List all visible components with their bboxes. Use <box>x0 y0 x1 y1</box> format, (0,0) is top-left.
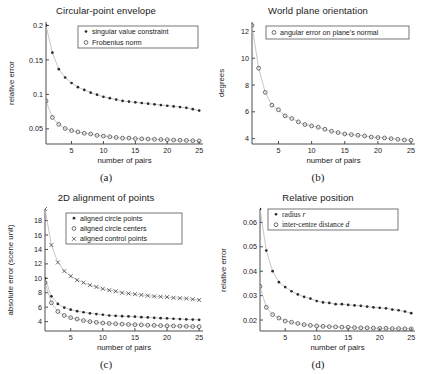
x-tick-label: 10 <box>308 146 316 155</box>
y-tick-label: 14 <box>34 245 42 254</box>
x-tick-label: 10 <box>99 146 107 155</box>
data-point <box>153 317 156 320</box>
x-tick-label: 25 <box>407 146 415 155</box>
y-tick-label: 0.1 <box>33 90 43 99</box>
data-point <box>160 104 163 107</box>
legend-label: aligned control points <box>80 235 147 243</box>
panel-d-caption: (d) <box>212 358 424 370</box>
panel-b: World plane orientation 5101520254681012… <box>212 0 424 187</box>
data-point <box>309 297 312 300</box>
x-tick-label: 10 <box>99 333 107 342</box>
data-point <box>44 277 47 280</box>
x-tick-label: 10 <box>313 333 321 342</box>
y-axis-label: degrees <box>217 69 226 97</box>
data-point <box>191 318 194 321</box>
plot-area-a: 5101520250.050.10.150.2number of pairsre… <box>0 0 212 187</box>
legend-label: inter-centre distance d <box>282 220 350 229</box>
legend-marker <box>73 217 76 220</box>
x-tick-label: 5 <box>70 146 74 155</box>
panel-c-caption: (c) <box>0 358 212 370</box>
data-point <box>185 318 188 321</box>
data-point <box>127 315 130 318</box>
data-point <box>378 306 381 309</box>
y-tick-label: 6 <box>38 303 42 312</box>
data-point <box>166 317 169 320</box>
data-point <box>56 260 60 264</box>
x-tick-label: 5 <box>69 333 73 342</box>
legend-label: radius r <box>282 210 305 219</box>
panel-a-caption: (a) <box>0 171 212 183</box>
x-tick-label: 5 <box>277 146 281 155</box>
x-tick-label: 15 <box>131 333 139 342</box>
trend-line <box>45 278 199 320</box>
y-axis-label: relative error <box>7 61 16 105</box>
data-point <box>271 270 274 273</box>
data-point <box>284 286 287 289</box>
data-point <box>341 303 344 306</box>
data-point <box>134 315 137 318</box>
data-point <box>69 274 73 278</box>
x-tick-label: 5 <box>283 333 287 342</box>
y-tick-label: 0.02 <box>243 316 257 325</box>
data-point <box>353 304 356 307</box>
x-tick-label: 15 <box>344 333 352 342</box>
data-point <box>259 208 262 211</box>
data-point <box>159 317 162 320</box>
data-point <box>153 103 156 106</box>
y-tick-label: 0.06 <box>243 218 257 227</box>
data-point <box>172 317 175 320</box>
legend-label: Frobenius norm <box>92 39 142 47</box>
y-tick-label: 0.04 <box>243 267 257 276</box>
x-tick-label: 25 <box>195 146 203 155</box>
figure-container: Circular-point envelope 5101520250.050.1… <box>0 0 425 374</box>
plot-area-d: 5101520250.020.030.040.050.06number of p… <box>212 187 424 374</box>
data-point <box>62 269 66 273</box>
panel-c: 2D alignment of points 51015202546810121… <box>0 187 212 374</box>
x-tick-label: 20 <box>376 333 384 342</box>
data-point <box>146 316 149 319</box>
panel-d: Relative position 5101520250.020.030.040… <box>212 187 424 374</box>
data-point <box>83 89 86 92</box>
x-tick-label: 20 <box>163 146 171 155</box>
data-point <box>108 314 111 317</box>
data-point <box>410 312 413 315</box>
data-point <box>278 281 281 284</box>
data-point <box>198 109 201 112</box>
data-point <box>185 106 188 109</box>
trend-line <box>45 283 199 327</box>
data-point <box>51 51 54 54</box>
data-point <box>45 24 48 27</box>
data-point <box>95 313 98 316</box>
x-tick-label: 15 <box>131 146 139 155</box>
trend-line <box>260 286 411 328</box>
panel-a: Circular-point envelope 5101520250.050.1… <box>0 0 212 187</box>
y-tick-label: 0.2 <box>33 21 43 30</box>
legend-label: aligned circle centers <box>80 225 147 233</box>
y-tick-label: 12 <box>34 259 42 268</box>
data-point <box>191 108 194 111</box>
panel-b-caption: (b) <box>212 171 424 183</box>
data-point <box>315 300 318 303</box>
legend-marker <box>85 30 88 33</box>
data-point <box>102 95 105 98</box>
x-tick-label: 20 <box>374 146 382 155</box>
legend-marker <box>275 213 278 216</box>
y-tick-label: 10 <box>241 54 249 63</box>
x-axis-label: number of pairs <box>97 343 151 352</box>
data-point <box>70 82 73 85</box>
y-tick-label: 12 <box>241 27 249 36</box>
data-point <box>115 98 118 101</box>
data-point <box>69 308 72 311</box>
data-point <box>179 106 182 109</box>
plot-area-c: 5101520254681012141618number of pairsabs… <box>0 187 212 374</box>
legend-label: angular error on plane's normal <box>280 29 379 37</box>
data-point <box>147 102 150 105</box>
data-point <box>198 318 201 321</box>
x-axis-label: number of pairs <box>97 156 151 165</box>
data-point <box>121 100 124 103</box>
y-tick-label: 4 <box>245 134 249 143</box>
data-point <box>328 302 331 305</box>
y-tick-label: 8 <box>245 81 249 90</box>
data-point <box>179 318 182 321</box>
data-point <box>391 308 394 311</box>
